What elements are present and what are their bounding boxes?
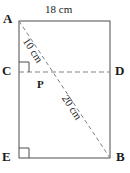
vertex-label-d: D <box>115 64 124 77</box>
point-label-p: P <box>37 79 44 90</box>
measure-label-top-edge: 18 cm <box>45 4 72 15</box>
right-angle-marker-c <box>19 62 29 72</box>
vertex-label-a: A <box>3 12 12 25</box>
vertex-label-e: E <box>2 150 11 163</box>
vertex-label-b: B <box>116 150 125 163</box>
figure-canvas <box>0 0 130 173</box>
right-angle-marker-e <box>19 148 29 158</box>
vertex-label-c: C <box>2 64 11 77</box>
geometry-figure: A B C D E P 18 cm 10 cm 20 cm <box>0 0 130 173</box>
